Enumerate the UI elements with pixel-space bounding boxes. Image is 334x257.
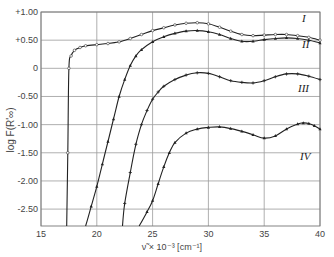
curve-label-iii: III	[297, 82, 310, 94]
x-tick-label: 25	[148, 229, 158, 239]
spectrum-chart: +1.00+0.500-0.50-1.00-1.50-2.00-2.50 152…	[0, 0, 334, 257]
plot-frame	[41, 12, 320, 226]
curve-iv	[139, 121, 321, 226]
y-axis-ticks: +1.00+0.500-0.50-1.00-1.50-2.00-2.50	[15, 7, 38, 214]
y-tick-label: -1.50	[17, 148, 38, 158]
x-tick-label: 35	[259, 229, 269, 239]
curve-label-i: I	[301, 12, 307, 24]
x-tick-label: 30	[203, 229, 213, 239]
y-tick-label: -0.50	[17, 91, 38, 101]
x-tick-label: 40	[315, 229, 325, 239]
curve-labels: IIIIIIIV	[297, 12, 312, 162]
x-axis-label: ν̃ × 10⁻³ [cm⁻¹]	[142, 242, 202, 252]
y-tick-label: -2.00	[17, 176, 38, 186]
x-tick-label: 15	[36, 229, 46, 239]
curves	[66, 21, 321, 226]
y-tick-label: 0	[33, 63, 38, 73]
y-tick-label: -2.50	[17, 204, 38, 214]
y-tick-label: -1.00	[17, 120, 38, 130]
y-tick-label: +1.00	[15, 7, 38, 17]
curve-i	[66, 21, 321, 226]
x-axis-ticks: 152025303540	[36, 229, 325, 239]
curve-label-ii: II	[301, 38, 311, 50]
grid-lines	[41, 12, 320, 226]
x-tick-label: 20	[92, 229, 102, 239]
y-tick-label: +0.50	[15, 35, 38, 45]
curve-label-iv: IV	[299, 150, 312, 162]
curve-ii	[86, 29, 322, 226]
y-axis-label: log F(R'∞)	[5, 107, 16, 152]
